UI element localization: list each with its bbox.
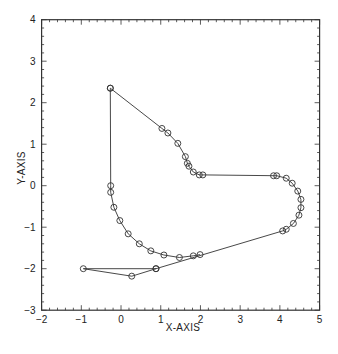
x-tick-label: −1 xyxy=(76,314,88,325)
data-series xyxy=(80,85,304,279)
y-tick-label: −3 xyxy=(24,305,36,316)
y-tick-label: 2 xyxy=(30,97,36,108)
x-tick-label: −2 xyxy=(36,314,48,325)
y-axis-label: Y-AXIS xyxy=(16,151,27,185)
y-tick-label: −1 xyxy=(24,222,36,233)
y-tick-label: 4 xyxy=(30,14,36,25)
plot-frame xyxy=(42,20,320,311)
x-tick-label: 4 xyxy=(277,314,283,325)
y-tick-label: 1 xyxy=(30,139,36,150)
chart: −2−1012345−3−2−101234 X-AXIS Y-AXIS xyxy=(0,0,338,354)
x-tick-label: 5 xyxy=(317,314,323,325)
x-tick-label: 0 xyxy=(118,314,124,325)
x-tick-label: 1 xyxy=(158,314,164,325)
x-tick-label: 3 xyxy=(237,314,243,325)
y-tick-label: 0 xyxy=(30,180,36,191)
plot-area: −2−1012345−3−2−101234 xyxy=(24,14,323,325)
y-tick-label: −2 xyxy=(24,263,36,274)
series-line xyxy=(83,88,301,276)
x-axis-label: X-AXIS xyxy=(166,322,201,333)
series-line xyxy=(110,88,200,257)
y-tick-label: 3 xyxy=(30,56,36,67)
